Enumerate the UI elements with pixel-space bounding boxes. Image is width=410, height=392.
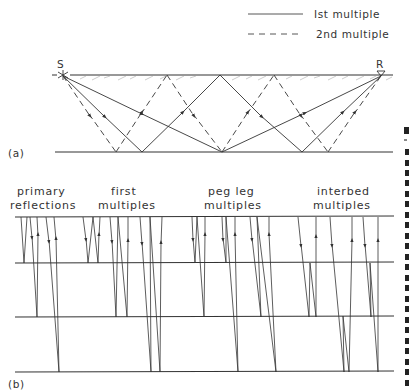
cropped-caption-edge (404, 127, 409, 386)
primary-reflection-paths (21, 217, 59, 372)
heading-primary-line2: reflections (10, 199, 76, 212)
heading-pegleg-line2: multiples (204, 199, 262, 212)
first-multiple-ray (63, 75, 381, 152)
primary-ray (63, 76, 381, 152)
panel-b: primary reflections first multiples peg … (8, 185, 394, 390)
first-multiple-paths (83, 217, 162, 372)
surface-hatching (80, 76, 392, 80)
panel-a-label: (a) (8, 147, 24, 159)
heading-first-line1: first (111, 185, 137, 198)
interbed-multiple-paths (298, 217, 378, 372)
panel-a: S R (a) (8, 58, 393, 159)
heading-interbed-line1: interbed (317, 185, 370, 198)
legend: Ist multiple 2nd multiple (248, 8, 389, 40)
heading-interbed-line2: multiples (313, 199, 371, 212)
legend-label-1st-multiple: Ist multiple (314, 8, 380, 20)
multiples-diagram: Ist multiple 2nd multiple S R (a) (0, 0, 410, 392)
legend-label-2nd-multiple: 2nd multiple (316, 28, 389, 40)
heading-pegleg-line1: peg leg (208, 185, 255, 198)
heading-first-line2: multiples (98, 199, 156, 212)
heading-primary-line1: primary (17, 185, 66, 198)
source-star-icon (58, 70, 68, 80)
second-multiple-ray (63, 75, 381, 152)
panel-b-label: (b) (8, 378, 25, 390)
peg-leg-multiple-paths (192, 217, 276, 372)
source-label: S (57, 58, 64, 70)
receiver-label: R (376, 58, 384, 70)
